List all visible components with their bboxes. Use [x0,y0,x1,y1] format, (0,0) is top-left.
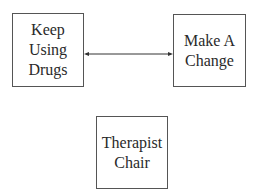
node-label-line: Make A [184,31,235,51]
node-label-line: Change [185,51,234,71]
node-make-a-change: Make A Change [173,14,246,87]
node-label-line: Chair [114,153,150,173]
node-label-line: Drugs [28,60,67,80]
node-label-line: Keep [31,20,65,40]
node-keep-using-drugs: Keep Using Drugs [12,13,84,87]
node-label-line: Using [29,40,67,60]
node-label-line: Therapist [102,133,162,153]
node-therapist-chair: Therapist Chair [96,116,168,189]
